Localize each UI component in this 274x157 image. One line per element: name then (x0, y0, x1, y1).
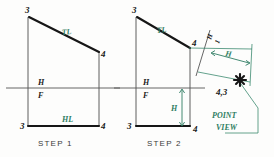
step1-horizontal-plane-label: H (37, 78, 45, 87)
step2-vertex-3-bottom: 3 (126, 121, 132, 131)
step2-aux-measure-extension (250, 44, 252, 86)
point-view-caption-line-2: VIEW (216, 123, 238, 132)
step1-vertex-3-top: 3 (24, 5, 30, 15)
step2-auxiliary-construction: H 1 H (189, 30, 258, 133)
step2-aux-fold-lower-label: 1 (213, 39, 222, 45)
step1-true-length-label: TL (61, 27, 72, 37)
step2-aux-height-dimension-label: H (224, 49, 233, 59)
point-view-vertex-label: 4,3 (215, 87, 228, 97)
point-view-caption-line-1: POINT (212, 111, 238, 120)
point-view-marker (234, 74, 246, 86)
step2-height-dimension: H (170, 89, 185, 126)
step-1-drawing: 3 4 3 4 TL H F HL STEP 1 (6, 5, 120, 148)
step1-vertex-4-bottom: 4 (100, 121, 106, 131)
step1-frontal-plane-label: F (37, 91, 44, 100)
step2-horizontal-plane-label: H (142, 78, 150, 87)
step-2-drawing: 3 4 3 4 TL H F H H 1 (114, 5, 258, 148)
step2-aux-height-dimension: H (211, 49, 250, 65)
step1-caption: STEP 1 (38, 139, 73, 148)
step2-aux-projector-upper (189, 48, 252, 49)
step2-height-dimension-label: H (170, 104, 178, 113)
figure-canvas: 3 4 3 4 TL H F HL STEP 1 3 4 3 (0, 0, 274, 157)
step1-vertex-3-bottom: 3 (19, 121, 25, 131)
step2-vertex-4-upper: 4 (191, 38, 197, 48)
step2-true-length-label: TL (156, 25, 167, 35)
technical-drawing: 3 4 3 4 TL H F HL STEP 1 3 4 3 (0, 0, 274, 157)
step1-vertex-4-top: 4 (100, 49, 106, 59)
step2-frontal-plane-label: F (142, 91, 149, 100)
step2-caption: STEP 2 (147, 139, 182, 148)
step1-horizontal-line-label: HL (61, 115, 73, 124)
step2-vertex-4-bottom: 4 (192, 124, 198, 134)
step2-vertex-3-top: 3 (131, 5, 137, 15)
